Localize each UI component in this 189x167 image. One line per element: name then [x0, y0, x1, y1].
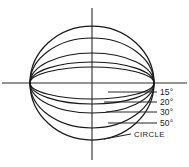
angle-label-20deg: 20° [160, 97, 173, 107]
angle-label-15deg: 15° [160, 87, 173, 97]
angle-label-circle: CIRCLE [134, 130, 165, 139]
angle-labels-group: 15°20°30°50°CIRCLE [134, 87, 173, 139]
ellipse-diagram: 15°20°30°50°CIRCLE [0, 0, 189, 167]
angle-label-50deg: 50° [160, 118, 173, 128]
ellipse-diagram-canvas: 15°20°30°50°CIRCLE [0, 0, 189, 167]
angle-label-30deg: 30° [160, 107, 173, 117]
